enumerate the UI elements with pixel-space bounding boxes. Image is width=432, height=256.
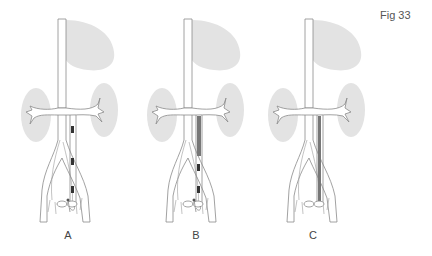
anastomosis-left [183,201,193,207]
clamp-pivot [67,199,70,202]
full-stent [318,116,321,204]
main-vessel [305,19,313,108]
clip-marker [197,186,200,193]
anatomy-diagram [0,0,432,256]
clip-marker [197,164,200,171]
figure-label: Fig 33 [380,9,411,21]
clip-marker [71,126,74,133]
panel-label-c: C [303,229,323,241]
panel-label-b: B [186,229,206,241]
anastomosis-left [57,201,67,207]
liver-shape [192,20,240,70]
clip-marker [71,158,74,165]
stent-segment [197,116,201,156]
anastomosis-right [314,201,324,207]
clamp-pivot [193,199,196,202]
main-vessel [184,19,192,108]
main-vessel [58,19,66,108]
anastomosis-left [304,201,314,207]
liver-shape [313,20,361,70]
panel-a [21,19,118,222]
clip-marker [71,186,74,193]
panel-c [268,19,365,222]
figure-33: Fig 33 A B C [0,0,432,256]
panel-b [147,19,244,222]
liver-shape [66,20,114,70]
panel-label-a: A [58,229,78,241]
